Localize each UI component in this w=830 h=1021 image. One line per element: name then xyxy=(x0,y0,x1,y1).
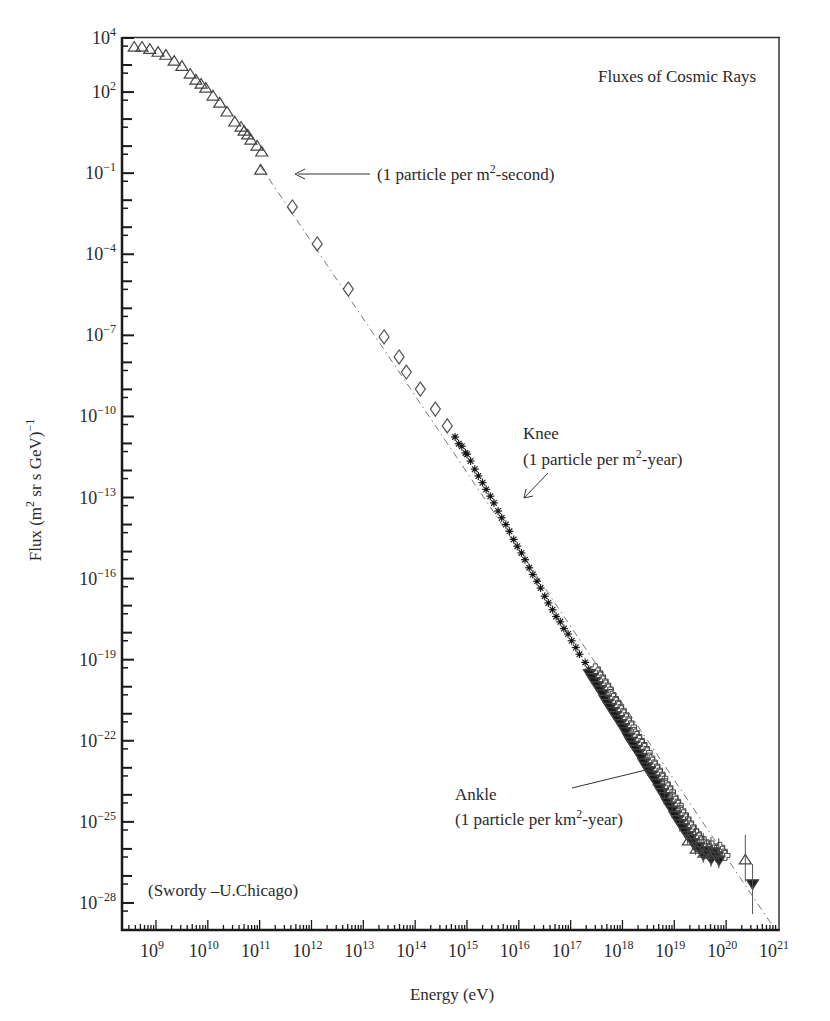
x-tick-label: 1013 xyxy=(344,938,374,961)
x-tick-label: 1011 xyxy=(241,938,271,961)
y-tick-label: 10−16 xyxy=(79,566,116,589)
x-tick-label: 1017 xyxy=(552,938,582,961)
x-tick-label: 1015 xyxy=(448,938,478,961)
y-tick-label: 10−19 xyxy=(79,647,116,670)
y-tick-label: 10−28 xyxy=(79,890,116,913)
svg-text:(1 particle per m2-year): (1 particle per m2-year) xyxy=(523,447,682,469)
x-tick-label: 1016 xyxy=(500,938,530,961)
x-tick-label: 1010 xyxy=(189,938,219,961)
x-tick-label: 1021 xyxy=(759,938,789,961)
cosmic-ray-flux-chart: 1091010101110121013101410151016101710181… xyxy=(0,0,830,1021)
y-tick-label: 10−22 xyxy=(79,728,116,751)
annotation-ankle: Ankle (1 particle per km2-year) xyxy=(455,764,655,829)
x-tick-label: 109 xyxy=(140,938,164,961)
x-axis-tick-labels: 1091010101110121013101410151016101710181… xyxy=(140,938,789,961)
y-tick-label: 10−7 xyxy=(85,322,116,345)
annotation-text: (1 particle per m xyxy=(377,165,490,184)
y-tick-label: 102 xyxy=(92,79,116,102)
y-axis-tick-labels: 10410210−110−410−710−1010−1310−1610−1910… xyxy=(79,25,116,913)
svg-text:(1 particle per m2-second): (1 particle per m2-second) xyxy=(377,162,554,184)
knee-label: Knee xyxy=(523,424,559,443)
annotation-one-per-m2-second: (1 particle per m2-second) xyxy=(295,162,554,184)
ankle-label: Ankle xyxy=(455,785,497,804)
x-axis-label: Energy (eV) xyxy=(410,985,494,1004)
svg-text:(1 particle per km2-year): (1 particle per km2-year) xyxy=(455,807,623,829)
x-tick-label: 1019 xyxy=(655,938,685,961)
y-tick-label: 104 xyxy=(92,25,116,48)
chart-title: Fluxes of Cosmic Rays xyxy=(598,67,756,86)
x-tick-label: 1012 xyxy=(292,938,322,961)
credit-label: (Swordy –U.Chicago) xyxy=(148,881,298,900)
y-tick-label: 10−4 xyxy=(85,241,116,264)
y-axis-label: Flux (m2 sr s GeV)−1 xyxy=(23,419,45,562)
x-tick-label: 1018 xyxy=(603,938,633,961)
y-tick-label: 10−10 xyxy=(79,403,116,426)
x-tick-label: 1014 xyxy=(396,938,426,961)
y-tick-label: 10−1 xyxy=(85,160,116,183)
y-axis-ticks xyxy=(122,38,134,930)
x-axis-ticks xyxy=(129,920,776,930)
y-tick-label: 10−13 xyxy=(79,485,116,508)
y-tick-label: 10−25 xyxy=(79,809,116,832)
x-tick-label: 1020 xyxy=(707,938,737,961)
annotation-knee: Knee (1 particle per m2-year) xyxy=(523,424,682,498)
